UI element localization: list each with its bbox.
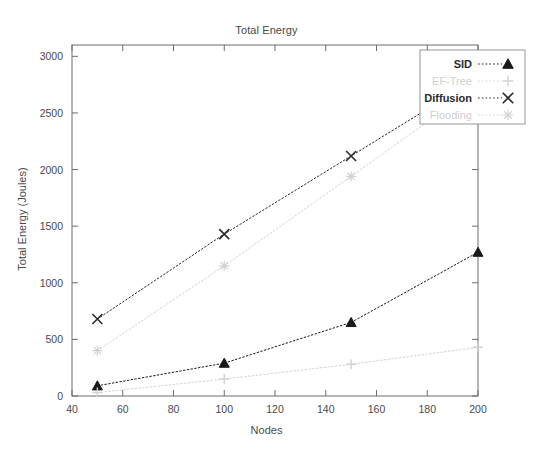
series-sid xyxy=(92,247,483,390)
chart-figure: Total Energy Total Energy (Joules) Nodes… xyxy=(0,0,533,457)
data-point-marker xyxy=(219,229,229,239)
data-point-marker xyxy=(346,171,356,181)
plot-area: 4060801001201401601802000500100015002000… xyxy=(0,0,533,457)
x-tick-label: 200 xyxy=(469,403,487,415)
series-line xyxy=(97,86,478,351)
plot-frame xyxy=(72,45,478,396)
data-point-marker xyxy=(346,151,356,161)
y-tick-label: 2000 xyxy=(40,164,64,176)
legend: SIDEF-TreeDiffusionFlooding xyxy=(420,50,525,124)
chart-title: Total Energy xyxy=(0,24,533,36)
data-point-marker xyxy=(473,247,483,256)
data-point-marker xyxy=(219,261,229,271)
legend-label: Flooding xyxy=(430,109,472,121)
x-tick-label: 180 xyxy=(418,403,436,415)
legend-label: Diffusion xyxy=(424,92,472,104)
data-point-marker xyxy=(346,317,356,326)
y-tick-label: 500 xyxy=(45,333,63,345)
x-tick-label: 80 xyxy=(168,403,180,415)
data-point-marker xyxy=(92,346,102,356)
x-tick-label: 60 xyxy=(117,403,129,415)
data-point-marker xyxy=(219,358,229,367)
y-tick-label: 3000 xyxy=(40,50,64,62)
y-axis-label: Total Energy (Joules) xyxy=(16,139,28,299)
data-point-marker xyxy=(92,314,102,324)
y-tick-label: 1000 xyxy=(40,277,64,289)
x-axis-label: Nodes xyxy=(0,424,533,436)
legend-label: EF-Tree xyxy=(432,75,472,87)
x-tick-label: 120 xyxy=(266,403,284,415)
y-tick-label: 0 xyxy=(57,390,63,402)
data-point-marker xyxy=(219,374,229,384)
y-tick-label: 1500 xyxy=(40,220,64,232)
legend-label: SID xyxy=(454,58,472,70)
data-point-marker xyxy=(503,110,514,121)
y-tick-label: 2500 xyxy=(40,107,64,119)
x-tick-label: 160 xyxy=(368,403,386,415)
series-line xyxy=(97,252,478,386)
x-tick-label: 140 xyxy=(317,403,335,415)
x-tick-label: 40 xyxy=(66,403,78,415)
series-line xyxy=(97,347,478,392)
x-tick-label: 100 xyxy=(215,403,233,415)
data-point-marker xyxy=(346,359,356,369)
data-point-marker xyxy=(473,342,483,352)
series-ef-tree xyxy=(92,342,483,397)
